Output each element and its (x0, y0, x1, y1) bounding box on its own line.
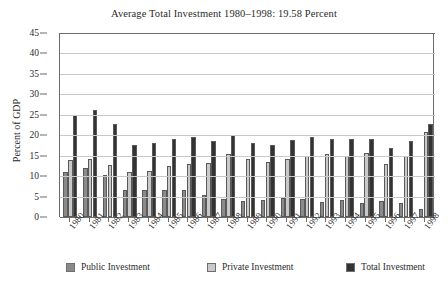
y-axis: Percent of GDP 051015202530354045 (0, 0, 59, 290)
bar-public[interactable] (142, 190, 146, 217)
legend-item-private[interactable]: Private Investment (207, 262, 294, 272)
bar-private[interactable] (325, 154, 329, 217)
bar-total[interactable] (369, 139, 373, 217)
bar-total[interactable] (251, 143, 255, 217)
bar-group (297, 33, 317, 217)
bar-total[interactable] (330, 139, 334, 217)
bar-group (139, 33, 159, 217)
grid-line (60, 74, 435, 75)
bar-total[interactable] (73, 115, 77, 217)
bars-layer (60, 33, 435, 217)
bar-private[interactable] (305, 156, 309, 217)
legend-item-public[interactable]: Public Investment (66, 262, 150, 272)
grid-line (60, 94, 435, 95)
legend-label: Public Investment (81, 262, 150, 272)
legend-swatch-icon (66, 263, 75, 272)
bar-group (396, 33, 416, 217)
bar-group (356, 33, 376, 217)
grid-line (60, 135, 435, 136)
bar-group (317, 33, 337, 217)
bar-private[interactable] (226, 154, 230, 217)
bar-public[interactable] (162, 190, 166, 217)
bar-private[interactable] (147, 171, 151, 217)
bar-total[interactable] (172, 139, 176, 217)
bar-public[interactable] (123, 190, 127, 217)
bar-private[interactable] (108, 165, 112, 217)
bar-private[interactable] (88, 159, 92, 217)
bar-private[interactable] (424, 132, 428, 217)
bar-group (119, 33, 139, 217)
bar-group (60, 33, 80, 217)
y-tick-mark (40, 94, 47, 95)
bar-private[interactable] (364, 153, 368, 217)
bar-private[interactable] (404, 156, 408, 217)
bar-group (178, 33, 198, 217)
bar-group (376, 33, 396, 217)
chart-container: Average Total Investment 1980–1998: 19.5… (0, 0, 448, 290)
bar-group (257, 33, 277, 217)
grid-line (60, 33, 435, 34)
y-tick-mark (40, 53, 47, 54)
y-tick-label: 15 (30, 151, 40, 161)
bar-group (277, 33, 297, 217)
y-tick-mark (40, 155, 47, 156)
legend-item-total[interactable]: Total Investment (346, 262, 425, 272)
bar-total[interactable] (310, 137, 314, 217)
bar-group (336, 33, 356, 217)
bar-total[interactable] (93, 110, 97, 217)
grid-line (60, 176, 435, 177)
y-axis-title: Percent of GDP (11, 71, 22, 191)
y-tick-label: 25 (30, 110, 40, 120)
y-tick-mark (40, 135, 47, 136)
bar-private[interactable] (206, 163, 210, 217)
y-tick-label: 35 (30, 69, 40, 79)
chart-legend: Public InvestmentPrivate InvestmentTotal… (59, 262, 434, 282)
bar-total[interactable] (211, 141, 215, 217)
grid-line (60, 115, 435, 116)
bar-group (198, 33, 218, 217)
bar-private[interactable] (167, 166, 171, 217)
bar-private[interactable] (68, 160, 72, 217)
bar-total[interactable] (349, 139, 353, 218)
bar-public[interactable] (63, 172, 67, 217)
bar-group (159, 33, 179, 217)
bar-private[interactable] (384, 164, 388, 217)
bar-public[interactable] (202, 195, 206, 217)
y-tick-label: 45 (30, 28, 40, 38)
bar-total[interactable] (152, 143, 156, 217)
bar-total[interactable] (409, 141, 413, 217)
legend-swatch-icon (346, 263, 355, 272)
legend-swatch-icon (207, 263, 216, 272)
bar-private[interactable] (127, 172, 131, 217)
y-tick-label: 10 (30, 171, 40, 181)
bar-group (238, 33, 258, 217)
y-tick-mark (40, 114, 47, 115)
bar-private[interactable] (285, 159, 289, 217)
bar-group (99, 33, 119, 217)
y-tick-mark (40, 176, 47, 177)
bar-total[interactable] (389, 148, 393, 218)
y-tick-mark (40, 217, 47, 218)
bar-private[interactable] (266, 162, 270, 217)
y-tick-mark (40, 73, 47, 74)
bar-private[interactable] (345, 156, 349, 217)
y-tick-label: 40 (30, 48, 40, 58)
bar-total[interactable] (290, 140, 294, 217)
y-tick-label: 30 (30, 89, 40, 99)
y-tick-label: 20 (30, 130, 40, 140)
y-tick-label: 5 (34, 192, 39, 202)
chart-title: Average Total Investment 1980–1998: 19.5… (0, 8, 448, 19)
bar-group (80, 33, 100, 217)
bar-total[interactable] (428, 124, 432, 217)
bar-public[interactable] (182, 190, 186, 217)
bar-private[interactable] (246, 159, 250, 217)
plot-area (59, 33, 434, 217)
legend-label: Private Investment (222, 262, 294, 272)
y-tick-mark (40, 33, 47, 34)
bar-private[interactable] (187, 164, 191, 217)
grid-line (60, 156, 435, 157)
grid-line (60, 53, 435, 54)
bar-group (218, 33, 238, 217)
bar-total[interactable] (113, 124, 117, 217)
grid-line (60, 197, 435, 198)
